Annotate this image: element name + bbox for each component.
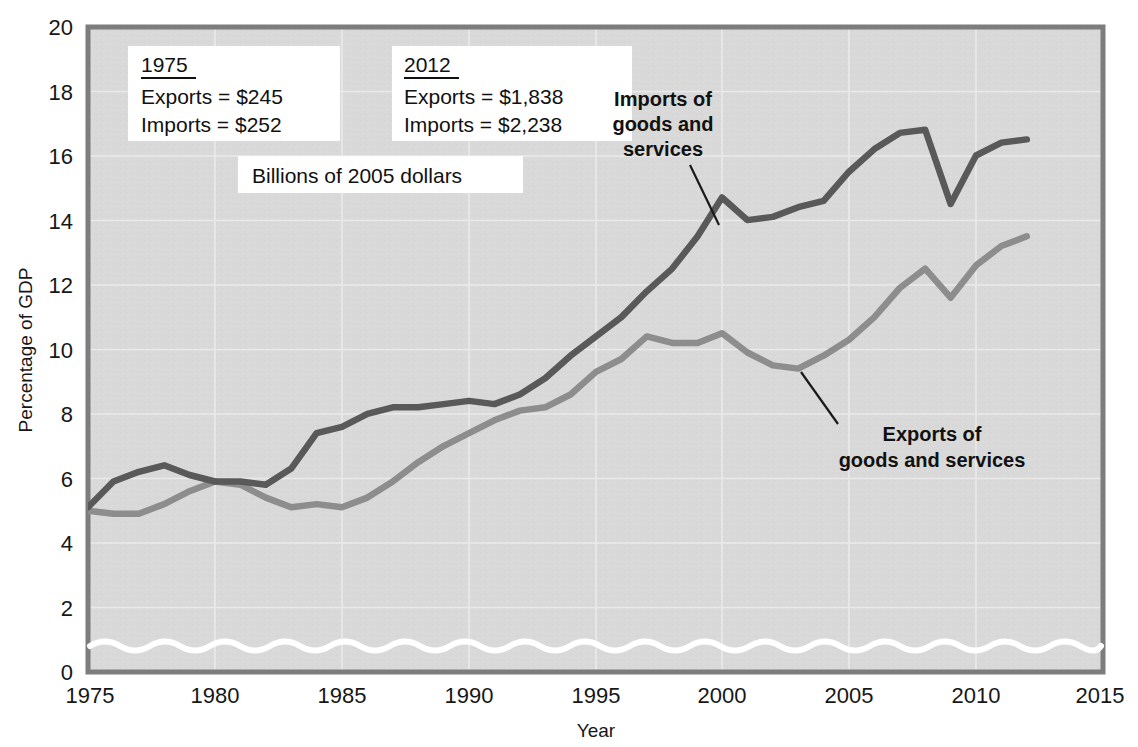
x-tick-label: 1975 xyxy=(66,683,115,708)
note-2012-heading: 2012 xyxy=(404,53,451,76)
y-tick-label: 2 xyxy=(61,596,73,621)
note-1975-heading: 1975 xyxy=(141,53,188,76)
y-tick-label: 6 xyxy=(61,467,73,492)
y-tick-label: 18 xyxy=(49,80,73,105)
x-tick-label: 2010 xyxy=(952,683,1001,708)
x-tick-label: 2015 xyxy=(1076,683,1125,708)
y-tick-label: 0 xyxy=(61,660,73,685)
imports-label-line1: Imports of xyxy=(614,88,712,110)
x-tick-label: 1980 xyxy=(191,683,240,708)
imports-label-line3: services xyxy=(623,138,703,160)
y-axis-title: Percentage of GDP xyxy=(15,268,36,433)
imports-label: Imports of goods and services xyxy=(612,88,713,160)
note-1975-exports: Exports = $245 xyxy=(141,85,283,108)
chart-container: 20 18 16 14 12 10 8 6 4 2 0 1975 1980 19… xyxy=(0,0,1138,747)
note-1975: 1975 Exports = $245 Imports = $252 xyxy=(128,46,340,141)
x-tick-label: 1985 xyxy=(318,683,367,708)
note-2012-imports: Imports = $2,238 xyxy=(404,113,562,136)
x-tick-label: 2005 xyxy=(825,683,874,708)
y-tick-label: 20 xyxy=(49,15,73,40)
imports-label-line2: goods and xyxy=(612,113,713,135)
y-axis-tick-labels: 20 18 16 14 12 10 8 6 4 2 0 xyxy=(49,15,73,685)
y-tick-label: 4 xyxy=(61,531,73,556)
units-note-text: Billions of 2005 dollars xyxy=(252,164,462,187)
y-tick-label: 8 xyxy=(61,402,73,427)
y-tick-label: 14 xyxy=(49,209,73,234)
note-2012-exports: Exports = $1,838 xyxy=(404,85,563,108)
x-axis-title: Year xyxy=(577,720,616,741)
x-tick-label: 2000 xyxy=(698,683,747,708)
exports-label-line1: Exports of xyxy=(883,423,982,445)
line-chart: 20 18 16 14 12 10 8 6 4 2 0 1975 1980 19… xyxy=(0,0,1138,747)
note-1975-imports: Imports = $252 xyxy=(141,113,282,136)
y-tick-label: 16 xyxy=(49,144,73,169)
note-2012: 2012 Exports = $1,838 Imports = $2,238 xyxy=(392,46,632,141)
exports-label-line2: goods and services xyxy=(839,449,1026,471)
x-tick-label: 1995 xyxy=(572,683,621,708)
y-tick-label: 10 xyxy=(49,338,73,363)
y-tick-label: 12 xyxy=(49,273,73,298)
units-note: Billions of 2005 dollars xyxy=(238,156,523,193)
x-tick-label: 1990 xyxy=(445,683,494,708)
x-axis-tick-labels: 1975 1980 1985 1990 1995 2000 2005 2010 … xyxy=(66,683,1125,708)
